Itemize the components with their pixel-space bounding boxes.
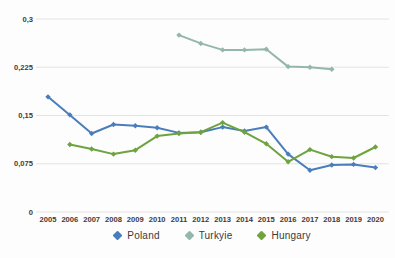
legend-label-poland: Poland [127, 230, 159, 241]
y-tick-label: 0,3 [22, 15, 33, 24]
x-tick-label: 2020 [367, 215, 384, 224]
data-point-hungary-2006 [67, 142, 72, 147]
data-point-turkyie-2012 [198, 41, 203, 46]
x-tick-label: 2012 [192, 215, 209, 224]
x-tick-label: 2005 [40, 215, 58, 224]
x-tick-label: 2016 [280, 215, 297, 224]
data-point-turkyie-2014 [242, 47, 247, 52]
legend-item-hungary: Hungary [258, 230, 310, 241]
hungary-diamond-icon [257, 231, 267, 241]
legend: Poland Turkyie Hungary [36, 230, 389, 241]
x-tick-label: 2018 [323, 215, 340, 224]
plot-area: 00,0750,150,2250,32005200620072008200920… [0, 0, 395, 228]
x-tick-label: 2011 [171, 215, 188, 224]
data-point-poland-2018 [329, 162, 334, 167]
data-point-hungary-2007 [89, 146, 94, 151]
data-point-poland-2020 [373, 165, 378, 170]
legend-label-turkyie: Turkyie [199, 230, 233, 241]
y-tick-label: 0,075 [14, 159, 34, 168]
x-tick-label: 2008 [105, 215, 122, 224]
data-point-turkyie-2011 [176, 32, 181, 37]
turkyie-diamond-icon [184, 231, 194, 241]
data-point-poland-2010 [154, 125, 159, 130]
x-tick-label: 2014 [236, 215, 254, 224]
data-point-hungary-2018 [329, 154, 334, 159]
line-chart: 00,0750,150,2250,32005200620072008200920… [0, 0, 395, 258]
data-point-poland-2019 [351, 162, 356, 167]
data-point-poland-2009 [133, 123, 138, 128]
series-line-turkyie [179, 35, 332, 69]
data-point-hungary-2008 [111, 151, 116, 156]
x-tick-label: 2017 [302, 215, 319, 224]
data-point-poland-2008 [111, 122, 116, 127]
y-tick-label: 0 [29, 208, 33, 217]
series-line-poland [48, 97, 375, 170]
x-tick-label: 2010 [149, 215, 166, 224]
x-tick-label: 2007 [83, 215, 100, 224]
legend-label-hungary: Hungary [271, 230, 310, 241]
y-tick-label: 0,15 [18, 111, 34, 120]
y-tick-label: 0,225 [14, 63, 34, 72]
x-tick-label: 2009 [127, 215, 144, 224]
x-tick-label: 2019 [345, 215, 362, 224]
x-tick-label: 2006 [61, 215, 78, 224]
legend-item-turkyie: Turkyie [186, 230, 233, 241]
data-point-turkyie-2013 [220, 47, 225, 52]
x-tick-label: 2013 [214, 215, 231, 224]
x-tick-label: 2015 [258, 215, 276, 224]
data-point-turkyie-2017 [307, 65, 312, 70]
legend-item-poland: Poland [114, 230, 159, 241]
poland-diamond-icon [113, 231, 123, 241]
